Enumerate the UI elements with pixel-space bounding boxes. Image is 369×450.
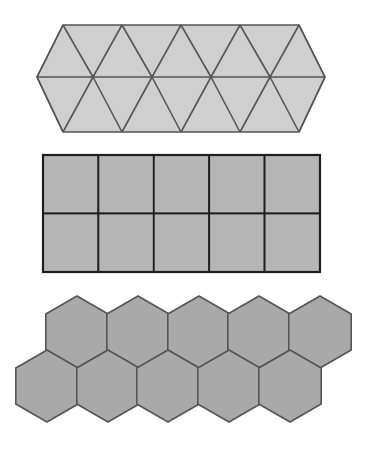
square-tile — [265, 214, 320, 273]
triangle-outline — [37, 25, 325, 132]
square-tile — [154, 155, 209, 214]
hexagon-tessellation — [16, 296, 351, 422]
square-tile — [98, 214, 153, 273]
square-tile — [209, 155, 264, 214]
square-tessellation — [43, 155, 320, 272]
tessellation-diagram — [0, 0, 369, 450]
square-tile — [98, 155, 153, 214]
diagram-canvas — [0, 0, 369, 450]
square-tile — [265, 155, 320, 214]
triangle-tessellation — [37, 25, 325, 132]
square-tile — [209, 214, 264, 273]
square-tile — [43, 155, 98, 214]
square-tile — [43, 214, 98, 273]
square-tile — [154, 214, 209, 273]
